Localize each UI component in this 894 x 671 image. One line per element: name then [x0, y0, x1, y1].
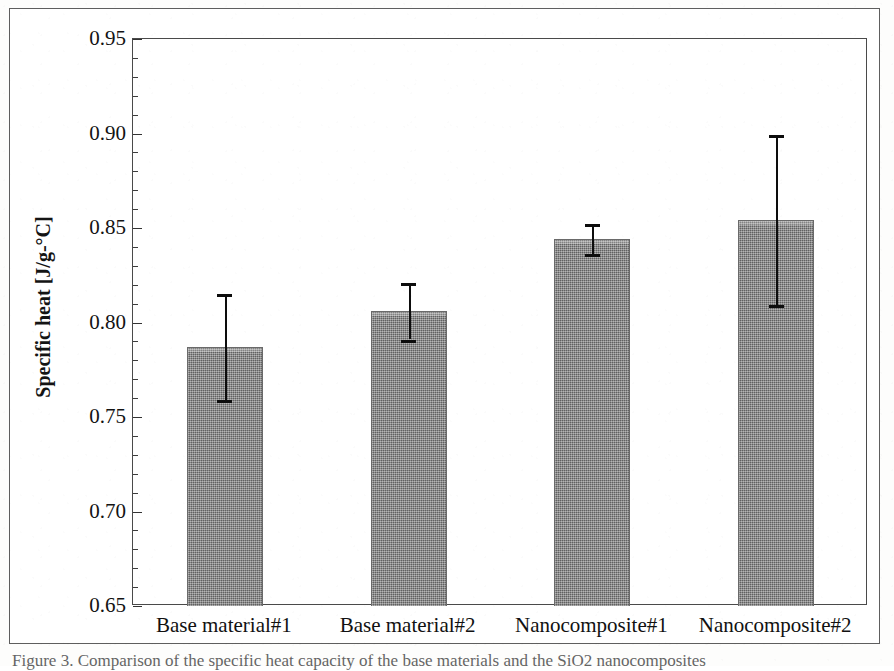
- x-tick-label: Base material#1: [156, 613, 292, 638]
- y-tick-major: [133, 606, 142, 607]
- y-tick-minor: [133, 455, 138, 456]
- error-bar-cap-lower: [585, 254, 600, 257]
- error-bar-cap-upper: [401, 283, 416, 286]
- y-tick-minor: [133, 379, 138, 380]
- y-tick-minor: [133, 304, 138, 305]
- y-tick-label-group: 0.950.900.850.800.750.700.65: [48, 38, 126, 605]
- y-tick-label: 0.95: [54, 26, 126, 51]
- y-tick-label: 0.80: [54, 309, 126, 334]
- y-tick-minor: [133, 58, 138, 59]
- y-tick-major: [133, 512, 142, 513]
- error-bar-cap-lower: [401, 340, 416, 343]
- figure-frame: Specific heat [J/g-°C] 0.950.900.850.800…: [9, 8, 880, 644]
- bar: [554, 239, 630, 606]
- y-tick-minor: [133, 247, 138, 248]
- y-tick-major: [133, 39, 142, 40]
- y-tick-minor: [133, 171, 138, 172]
- y-tick-major: [133, 417, 142, 418]
- y-tick-label: 0.90: [54, 120, 126, 145]
- y-tick-minor: [133, 568, 138, 569]
- error-bar-line: [776, 135, 778, 305]
- x-tick-label: Base material#2: [340, 613, 476, 638]
- x-tick-label: Nanocomposite#1: [515, 613, 668, 638]
- error-bar-cap-upper: [217, 294, 232, 297]
- y-tick-minor: [133, 398, 138, 399]
- error-bar-cap-upper: [585, 224, 600, 227]
- y-tick-minor: [133, 209, 138, 210]
- y-tick-minor: [133, 587, 138, 588]
- y-tick-minor: [133, 360, 138, 361]
- x-tick-label: Nanocomposite#2: [699, 613, 852, 638]
- y-tick-minor: [133, 549, 138, 550]
- y-tick-minor: [133, 436, 138, 437]
- y-tick-minor: [133, 190, 138, 191]
- y-tick-minor: [133, 96, 138, 97]
- y-tick-major: [133, 323, 142, 324]
- y-tick-label: 0.75: [54, 404, 126, 429]
- error-bar-cap-lower: [217, 400, 232, 403]
- y-tick-minor: [133, 115, 138, 116]
- y-tick-label: 0.65: [54, 593, 126, 618]
- error-bar-line: [592, 224, 594, 254]
- error-bar-cap-lower: [769, 305, 784, 308]
- plot-area: [132, 38, 867, 605]
- y-tick-minor: [133, 152, 138, 153]
- error-bar-line: [225, 294, 227, 400]
- y-tick-minor: [133, 285, 138, 286]
- y-tick-label: 0.70: [54, 498, 126, 523]
- x-tick-label-group: Base material#1Base material#2Nanocompos…: [132, 613, 867, 647]
- y-tick-minor: [133, 530, 138, 531]
- y-tick-major: [133, 228, 142, 229]
- y-tick-minor: [133, 341, 138, 342]
- figure-caption: Figure 3. Comparison of the specific hea…: [12, 651, 882, 671]
- y-tick-minor: [133, 77, 138, 78]
- y-tick-label: 0.85: [54, 215, 126, 240]
- y-tick-minor: [133, 266, 138, 267]
- y-tick-minor: [133, 493, 138, 494]
- error-bar-line: [409, 283, 411, 340]
- y-tick-minor: [133, 474, 138, 475]
- error-bar-cap-upper: [769, 135, 784, 138]
- bar: [371, 311, 447, 606]
- y-tick-major: [133, 134, 142, 135]
